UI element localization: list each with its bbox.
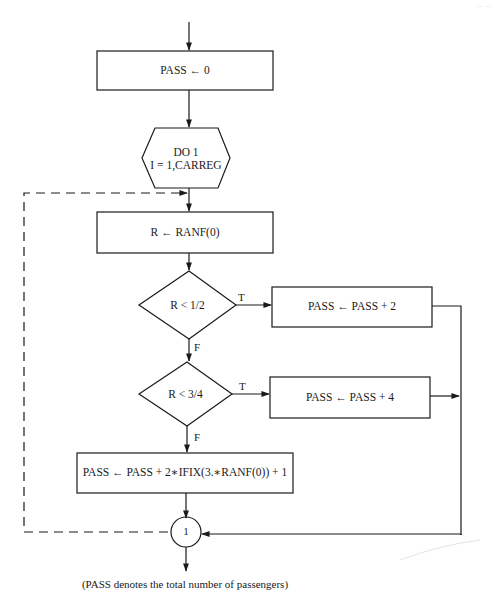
- loop-label-line1: DO 1: [142, 146, 230, 159]
- caption: (PASS denotes the total number of passen…: [60, 578, 310, 591]
- loop-back-dashed: [24, 193, 187, 532]
- add-random-label: PASS ← PASS + 2∗IFIX(3.∗RANF(0)) + 1: [77, 466, 293, 479]
- connector-label: 1: [176, 525, 196, 538]
- decision2-label: R < 3/4: [139, 388, 232, 401]
- loop-label-line2: I = 1,CARREG: [142, 159, 230, 172]
- random-label: R ← RANF(0): [97, 226, 273, 239]
- d2-false-label: F: [194, 431, 200, 444]
- add2-label: PASS ← PASS + 2: [272, 300, 432, 313]
- d1-false-label: F: [194, 341, 200, 354]
- init-label: PASS ← 0: [97, 64, 273, 77]
- d1-true-label: T: [238, 291, 245, 304]
- decision1-label: R < 1/2: [139, 299, 236, 312]
- d2-true-label: T: [239, 380, 246, 393]
- add4-label: PASS ← PASS + 4: [270, 391, 430, 404]
